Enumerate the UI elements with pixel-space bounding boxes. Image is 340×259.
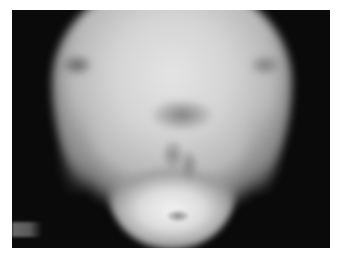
nasal-lucency-left: [162, 140, 184, 170]
left-zygomatic-region: [57, 105, 97, 195]
film-marker: [12, 222, 42, 237]
right-zygomatic-region: [242, 105, 282, 195]
mandible-region: [107, 160, 237, 248]
left-lucency: [62, 55, 92, 75]
right-lucency: [250, 55, 280, 75]
nasal-lucency-right: [180, 150, 198, 180]
skull-silhouette: [52, 10, 292, 248]
central-lucency: [152, 100, 212, 130]
chin-lucency: [167, 210, 189, 222]
xray-image: [12, 10, 330, 248]
